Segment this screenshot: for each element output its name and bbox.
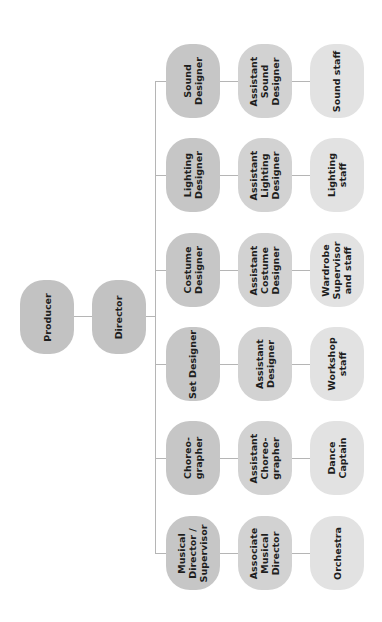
connector-trunk-choreography — [155, 458, 166, 459]
node-music-assistant: Associate Musical Director — [238, 516, 292, 590]
node-sound-assistant: Assistant Sound Designer — [238, 44, 292, 118]
connector-costume-assistant-staff — [291, 270, 310, 271]
node-label: Choreo- grapher — [182, 437, 204, 480]
node-label: Orchestra — [331, 527, 342, 580]
node-label: Lighting Designer — [182, 151, 204, 199]
connector-lighting-lead-assistant — [219, 175, 238, 176]
node-label: Assistant Costume Designer — [249, 245, 282, 295]
connector-trunk-costume — [155, 270, 166, 271]
node-set-assistant: Assistant Designer — [238, 327, 292, 401]
connector-director-trunk — [146, 316, 155, 317]
node-choreography-lead: Choreo- grapher — [166, 421, 220, 495]
connector-choreography-lead-assistant — [219, 458, 238, 459]
node-label: Workshop staff — [326, 337, 348, 390]
node-choreography-assistant: Assistant Choreo- grapher — [238, 421, 292, 495]
org-chart: Producer Director Sound DesignerAssistan… — [0, 0, 382, 622]
node-sound-lead: Sound Designer — [166, 44, 220, 118]
node-label: Producer — [42, 293, 53, 342]
node-director: Director — [92, 280, 146, 354]
node-label: Assistant Choreo- grapher — [249, 433, 282, 483]
node-producer: Producer — [20, 280, 74, 354]
connector-music-assistant-staff — [291, 553, 310, 554]
connector-costume-lead-assistant — [219, 270, 238, 271]
connector-producer-director — [73, 316, 92, 317]
node-label: Sound Designer — [182, 57, 204, 105]
node-label: Assistant Designer — [254, 339, 276, 389]
connector-trunk-set — [155, 364, 166, 365]
node-set-staff: Workshop staff — [310, 327, 364, 401]
node-set-lead: Set Designer — [166, 327, 220, 401]
node-costume-assistant: Assistant Costume Designer — [238, 233, 292, 307]
node-label: Director — [114, 295, 125, 339]
node-sound-staff: Sound staff — [310, 44, 364, 118]
connector-sound-assistant-staff — [291, 81, 310, 82]
node-lighting-assistant: Assistant Lighting Designer — [238, 138, 292, 212]
node-label: Costume Designer — [182, 246, 204, 294]
node-music-staff: Orchestra — [310, 516, 364, 590]
connector-sound-lead-assistant — [219, 81, 238, 82]
node-label: Assistant Sound Designer — [249, 56, 282, 106]
connector-trunk — [155, 81, 156, 554]
connector-choreography-assistant-staff — [291, 458, 310, 459]
node-label: Assistant Lighting Designer — [249, 150, 282, 200]
node-lighting-lead: Lighting Designer — [166, 138, 220, 212]
connector-trunk-music — [155, 553, 166, 554]
node-costume-staff: Wardrobe Supervisor and staff — [310, 233, 364, 307]
node-label: Dance Captain — [326, 437, 348, 478]
connector-trunk-lighting — [155, 175, 166, 176]
connector-trunk-sound — [155, 81, 166, 82]
node-label: Wardrobe Supervisor and staff — [321, 241, 354, 299]
node-label: Set Designer — [188, 329, 199, 398]
node-choreography-staff: Dance Captain — [310, 421, 364, 495]
node-label: Associate Musical Director — [248, 527, 281, 578]
node-music-lead: Musical Director / Supervisor — [166, 516, 220, 590]
node-label: Lighting staff — [326, 153, 348, 197]
node-label: Musical Director / Supervisor — [177, 524, 210, 582]
connector-music-lead-assistant — [219, 553, 238, 554]
connector-set-lead-assistant — [219, 364, 238, 365]
connector-set-assistant-staff — [291, 364, 310, 365]
connector-lighting-assistant-staff — [291, 175, 310, 176]
node-lighting-staff: Lighting staff — [310, 138, 364, 212]
node-costume-lead: Costume Designer — [166, 233, 220, 307]
node-label: Sound staff — [332, 50, 343, 111]
